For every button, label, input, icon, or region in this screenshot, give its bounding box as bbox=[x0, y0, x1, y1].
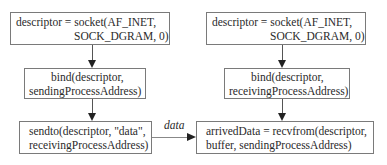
sender-socket-box: descriptor = socket(AF_INET, SOCK_DGRAM,… bbox=[10, 12, 170, 45]
receiver-socket-box: descriptor = socket(AF_INET, SOCK_DGRAM,… bbox=[206, 12, 366, 45]
sender-bind-box: bind(descriptor, sendingProcessAddress) bbox=[24, 68, 146, 99]
receiver-arrow-2-line bbox=[282, 99, 283, 114]
receiver-recvfrom-line1: arrivedData = recvfrom(descriptor, bbox=[206, 124, 373, 138]
sender-bind-line2: sendingProcessAddress) bbox=[29, 84, 145, 98]
sender-socket-line1: descriptor = socket(AF_INET, bbox=[16, 15, 169, 29]
data-arrow-line bbox=[152, 137, 188, 138]
sender-arrow-2-line bbox=[92, 99, 93, 114]
sender-sendto-box: sendto(descriptor, "data", receivingProc… bbox=[19, 121, 152, 154]
receiver-recvfrom-line2: buffer, sendingProcessAddress) bbox=[206, 138, 373, 152]
receiver-socket-line1: descriptor = socket(AF_INET, bbox=[212, 15, 365, 29]
receiver-arrow-2-head-icon bbox=[278, 113, 286, 121]
sender-arrow-1-line bbox=[92, 45, 93, 61]
receiver-bind-box: bind(descriptor, receivingProcessAddress… bbox=[224, 68, 350, 99]
sender-arrow-1-head-icon bbox=[88, 60, 96, 68]
sender-bind-line1: bind(descriptor, bbox=[29, 70, 145, 84]
receiver-bind-line2: receivingProcessAddress) bbox=[229, 84, 349, 98]
sender-arrow-2-head-icon bbox=[88, 113, 96, 121]
receiver-arrow-1-head-icon bbox=[278, 60, 286, 68]
data-arrow-head-icon bbox=[187, 133, 196, 141]
receiver-arrow-1-line bbox=[282, 45, 283, 61]
sender-socket-line2: SOCK_DGRAM, 0) bbox=[16, 29, 169, 43]
data-arrow-label: data bbox=[164, 119, 184, 131]
receiver-recvfrom-box: arrivedData = recvfrom(descriptor, buffe… bbox=[196, 121, 374, 154]
receiver-bind-line1: bind(descriptor, bbox=[229, 70, 349, 84]
sender-sendto-line1: sendto(descriptor, "data", bbox=[29, 124, 151, 138]
receiver-socket-line2: SOCK_DGRAM, 0) bbox=[212, 29, 365, 43]
sender-sendto-line2: receivingProcessAddress) bbox=[29, 138, 151, 152]
